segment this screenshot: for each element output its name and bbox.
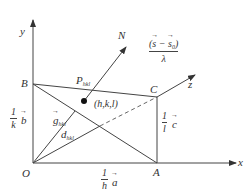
point-c-label: C [150,84,157,95]
intercept-c-den: l [162,122,167,134]
s0-sub: 0 [172,44,175,50]
vec-b: b [21,115,27,126]
s-vec: s [152,39,156,49]
intercept-c-label: 1 l [161,111,168,134]
intercept-a-den: h [101,179,108,191]
minus-sign: − [156,38,168,49]
x-axis-label: x [238,157,243,168]
intercept-b-den: k [10,118,16,130]
vector-g-label: ghkl [53,115,66,127]
normal-n-label: N [118,30,125,41]
intercept-b-label: 1 k [10,107,17,130]
vec-a: a [112,177,118,188]
point-b-label: B [21,78,28,89]
intercept-b-vec: b [21,115,27,126]
node-hkl-label: (h,k,l) [94,99,118,109]
edge-bc [33,84,157,97]
plane-p-main: P [76,74,83,86]
spacing-d-sub: hkl [67,135,74,141]
fraction-denominator: λ [149,51,177,64]
vec-c: c [172,119,177,130]
plane-p-label: Phkl [76,75,90,87]
point-a-label: A [153,167,160,178]
intercept-a-label: 1 h [101,168,108,191]
intercept-c-vec: c [172,119,177,130]
spacing-d-label: dhkl [61,129,74,141]
intercept-a-vec: a [112,177,118,188]
origin-label: O [22,168,30,179]
lattice-point-dot [81,98,87,104]
intercept-a-num: 1 [101,168,108,179]
vector-g-sub: hkl [59,121,66,127]
fraction-numerator: (s − s0) [148,39,179,51]
scattering-vector-fraction: (s − s0) λ [148,39,179,64]
vector-g-main: g [53,115,59,126]
plane-p-sub: hkl [83,81,90,87]
edge-ba [33,84,157,163]
intercept-b-num: 1 [10,107,17,118]
s0-vec: s [168,39,172,49]
intercept-c-num: 1 [161,111,168,122]
y-axis-label: y [20,26,25,37]
z-axis-label: z [188,79,192,90]
